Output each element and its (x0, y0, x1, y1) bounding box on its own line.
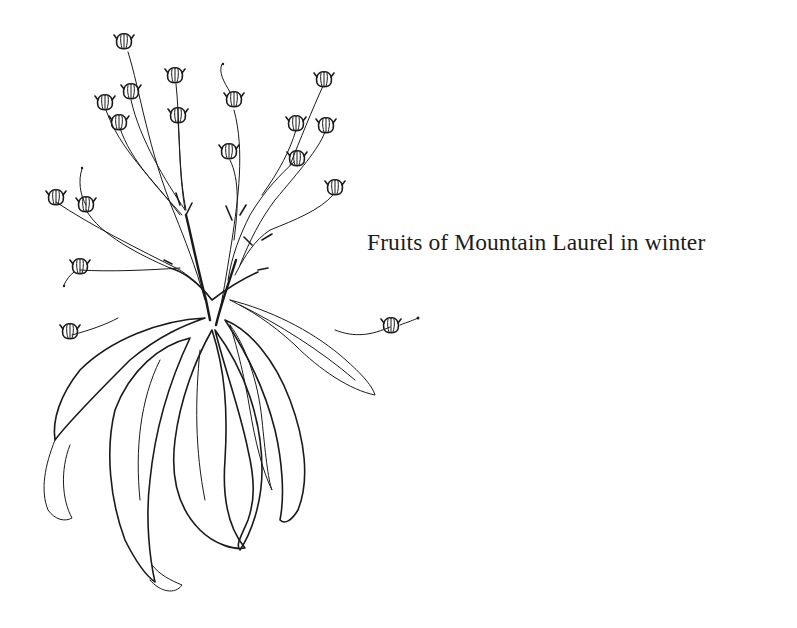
leaves (44, 300, 375, 591)
botanical-drawing-icon (0, 0, 440, 628)
fruit-capsules (46, 34, 420, 339)
mountain-laurel-illustration (0, 0, 440, 628)
illustration-caption: Fruits of Mountain Laurel in winter (367, 229, 705, 256)
